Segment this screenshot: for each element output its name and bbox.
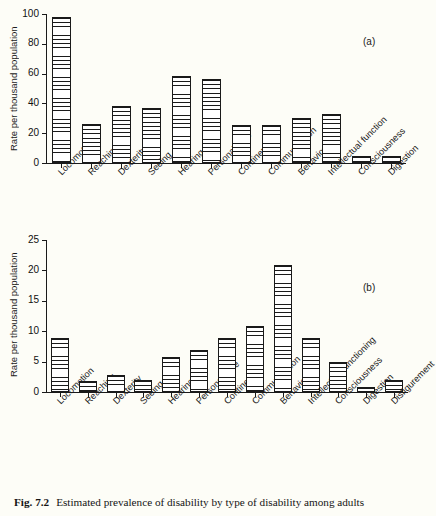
y-tick-mark [42,74,47,75]
bar [112,106,131,163]
y-tick-label: 25 [6,234,39,245]
y-tick-mark [42,14,47,15]
y-tick-mark [42,392,47,393]
caption-text: Estimated prevalence of disability by ty… [56,496,364,508]
caption-number: Fig. 7.2 [14,496,49,508]
y-tick-label: 20 [6,264,39,275]
bar [51,338,69,392]
bar [292,118,311,163]
plot-area-a: 020406080100LocomotionReachingDexterityS… [46,14,432,229]
bar [302,338,320,392]
y-tick-label: 0 [6,157,39,168]
y-tick-mark [42,133,47,134]
bar [142,108,161,163]
chart-panel-a: Rate per thousand population (a) 0204060… [0,0,434,232]
y-tick-label: 0 [6,386,39,397]
bar [322,114,341,163]
y-axis-label-b: Rate per thousand population [8,240,19,390]
y-tick-label: 15 [6,294,39,305]
y-tick-mark [42,301,47,302]
bar [274,265,292,392]
figure-caption: Fig. 7.2Estimated prevalence of disabili… [14,496,434,508]
y-tick-label: 60 [6,67,39,78]
y-tick-mark [42,240,47,241]
plot-area-b: 0510152025LocomotionReachingDexteritySee… [46,240,432,480]
y-tick-mark [42,103,47,104]
bar [202,79,221,163]
y-tick-mark [42,331,47,332]
y-tick-label: 100 [6,8,39,19]
y-axis-line [46,14,47,163]
bar [246,326,264,392]
y-tick-mark [42,163,47,164]
bar [172,76,191,163]
y-tick-label: 10 [6,325,39,336]
y-tick-mark [42,44,47,45]
y-tick-mark [42,270,47,271]
chart-panel-b: Rate per thousand population (b) 0510152… [0,232,434,482]
y-axis-line [46,240,47,392]
y-tick-label: 5 [6,355,39,366]
y-tick-label: 20 [6,127,39,138]
y-tick-label: 40 [6,97,39,108]
y-tick-mark [42,362,47,363]
bar [52,17,71,163]
bar [218,338,236,392]
y-tick-label: 80 [6,37,39,48]
